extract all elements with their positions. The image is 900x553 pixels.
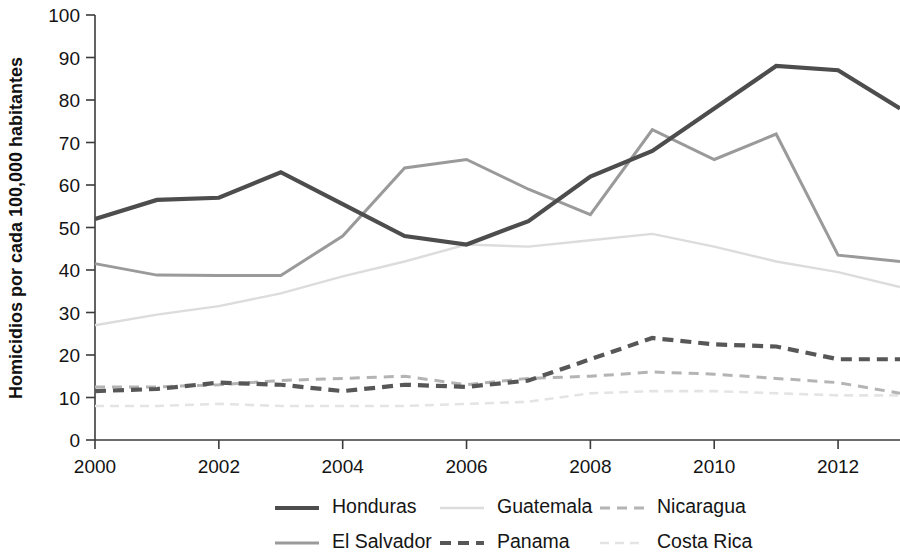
x-axis-tick-label: 2008 [569,456,611,477]
legend-label-nicaragua: Nicaragua [657,495,746,517]
x-axis-tick-label: 2010 [693,456,735,477]
legend-label-guatemala: Guatemala [497,495,593,517]
x-axis-tick-label: 2000 [74,456,116,477]
x-axis-tick-label: 2004 [322,456,365,477]
y-axis-title-group: Homicidios por cada 100,000 habitantes [6,57,26,399]
legend-item-costa-rica: Costa Rica [600,530,753,552]
x-axis-tick-label: 2012 [817,456,859,477]
legend-item-nicaragua: Nicaragua [600,495,746,517]
series-line-panama [95,338,900,391]
x-axis-tick-label: 2006 [445,456,487,477]
legend-label-costa-rica: Costa Rica [657,530,753,552]
y-axis-tick-label: 100 [48,5,80,26]
homicide-rate-line-chart: Homicidios por cada 100,000 habitantes 0… [0,0,900,553]
series-line-honduras [95,66,900,245]
x-axis-tick-label: 2002 [198,456,240,477]
y-axis-tick-label: 70 [59,133,80,154]
series-line-costa-rica [95,391,900,406]
y-axis-tick-label: 10 [59,388,80,409]
legend-item-honduras: Honduras [275,495,417,517]
legend-item-panama: Panama [440,530,570,552]
series-line-guatemala [95,234,900,325]
legend-item-el-salvador: El Salvador [275,530,432,552]
chart-figure: Homicidios por cada 100,000 habitantes 0… [0,0,900,553]
x-axis: 2000200220042006200820102012 [74,440,900,477]
series-line-el-salvador [95,130,900,276]
series-lines [95,66,900,406]
y-axis-tick-label: 60 [59,175,80,196]
y-axis-title: Homicidios por cada 100,000 habitantes [6,57,26,399]
y-axis-tick-label: 20 [59,345,80,366]
y-axis: 0102030405060708090100 [48,5,95,451]
y-axis-tick-label: 40 [59,260,80,281]
chart-legend: HondurasGuatemalaNicaraguaEl SalvadorPan… [275,495,753,552]
y-axis-tick-label: 50 [59,218,80,239]
y-axis-tick-label: 0 [69,430,80,451]
y-axis-tick-label: 90 [59,48,80,69]
legend-label-el-salvador: El Salvador [332,530,432,552]
y-axis-tick-label: 30 [59,303,80,324]
y-axis-tick-label: 80 [59,90,80,111]
legend-label-panama: Panama [497,530,570,552]
legend-label-honduras: Honduras [332,495,417,517]
legend-item-guatemala: Guatemala [440,495,593,517]
